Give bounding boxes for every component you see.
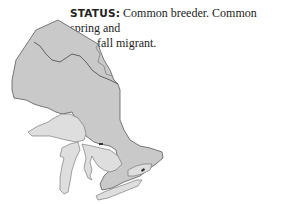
lake-superior [28,114,86,142]
range-map [0,0,281,204]
lake-michigan [60,142,80,194]
location-marker [99,143,103,145]
